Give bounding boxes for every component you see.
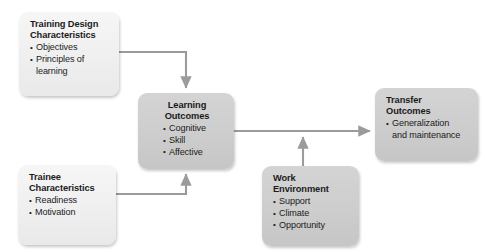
bullet-item: Support bbox=[273, 196, 350, 208]
connector-trainee-to-learning bbox=[116, 174, 186, 194]
node-learning-outcomes[interactable]: Learning Outcomes Cognitive Skill Affect… bbox=[138, 93, 234, 169]
bullet-item: Principles of bbox=[30, 54, 110, 66]
node-transfer-outcomes[interactable]: Transfer Outcomes Generalization and mai… bbox=[375, 88, 478, 161]
node-bullet-list: Support Climate Opportunity bbox=[273, 196, 350, 231]
node-title: Transfer Outcomes bbox=[386, 95, 469, 117]
node-bullet-list: Generalization and maintenance bbox=[386, 118, 469, 141]
node-title: Trainee Characteristics bbox=[29, 172, 107, 194]
bullet-item: Climate bbox=[273, 208, 350, 220]
node-bullet-list: Readiness Motivation bbox=[29, 195, 107, 218]
node-bullet-list: Objectives Principles of learning bbox=[30, 42, 110, 77]
bullet-item: Skill bbox=[163, 135, 225, 147]
connector-training-to-learning bbox=[119, 52, 186, 88]
node-work-environment[interactable]: Work Environment Support Climate Opportu… bbox=[262, 166, 359, 246]
node-trainee-characteristics[interactable]: Trainee Characteristics Readiness Motiva… bbox=[18, 165, 116, 245]
bullet-item: Affective bbox=[163, 147, 225, 159]
bullet-item: Cognitive bbox=[163, 123, 225, 135]
bullet-item: Objectives bbox=[30, 42, 110, 54]
node-training-design-characteristics[interactable]: Training Design Characteristics Objectiv… bbox=[19, 12, 119, 96]
bullet-item: Motivation bbox=[29, 207, 107, 219]
bullet-item: Readiness bbox=[29, 195, 107, 207]
node-bullet-list: Cognitive Skill Affective bbox=[163, 123, 225, 158]
bullet-item-continuation: learning bbox=[30, 66, 110, 78]
node-title: Training Design Characteristics bbox=[30, 19, 110, 41]
node-title: Work Environment bbox=[273, 173, 350, 195]
bullet-item: Opportunity bbox=[273, 220, 350, 232]
bullet-item-continuation: and maintenance bbox=[386, 130, 469, 142]
bullet-item: Generalization bbox=[386, 118, 469, 130]
diagram-canvas: Training Design Characteristics Objectiv… bbox=[0, 0, 485, 252]
node-title: Learning Outcomes bbox=[149, 100, 225, 122]
